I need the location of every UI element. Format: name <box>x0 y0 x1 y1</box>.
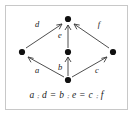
figure-root: a b c d e f <box>0 0 136 117</box>
edge-label-b: b <box>58 62 62 72</box>
node-bottom <box>65 77 71 83</box>
edge-f: f <box>74 19 109 48</box>
edge-label-a: a <box>35 65 39 75</box>
node-left <box>19 49 25 55</box>
edge-label-c: c <box>95 65 99 75</box>
caption-equation: a ⨾ d = b ⨾ e = c ⨾ f <box>5 90 128 101</box>
node-top <box>65 16 71 22</box>
edge-label-e: e <box>58 30 62 40</box>
edge-label-d: d <box>35 19 40 29</box>
node-right <box>110 49 116 55</box>
node-middle <box>65 49 71 55</box>
edge-label-f: f <box>98 19 102 29</box>
edge-d: d <box>26 19 62 48</box>
edge-c: c <box>72 57 107 77</box>
edge-b: b <box>58 57 71 76</box>
